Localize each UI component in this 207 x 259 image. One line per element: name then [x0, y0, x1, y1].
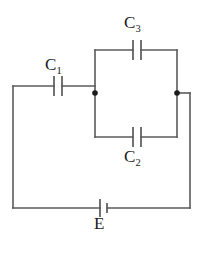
circuit-diagram-canvas: C1 C3 C2 E	[0, 0, 207, 259]
label-c2-letter: C	[124, 147, 136, 166]
capacitor-c1-symbol	[54, 76, 62, 96]
label-c3-letter: C	[124, 13, 136, 32]
parallel-branch-box	[95, 50, 177, 137]
label-c2-subscript: 2	[136, 157, 141, 168]
junction-dot-right	[174, 90, 180, 96]
label-c1-letter: C	[45, 55, 57, 74]
junction-dot-left	[92, 90, 98, 96]
capacitor-c2-symbol	[133, 127, 141, 147]
outer-loop-wires	[13, 86, 190, 208]
label-c1-subscript: 1	[57, 65, 62, 76]
label-battery-e: E	[94, 215, 105, 232]
capacitor-c3-symbol	[133, 40, 141, 60]
label-c3-subscript: 3	[136, 23, 141, 34]
label-capacitor-c2: C2	[124, 148, 141, 169]
label-capacitor-c3: C3	[124, 14, 141, 35]
junction-nodes	[92, 90, 180, 96]
label-capacitor-c1: C1	[45, 56, 62, 77]
